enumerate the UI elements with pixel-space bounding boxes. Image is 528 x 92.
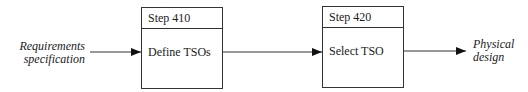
step-420-action: Select TSO: [323, 28, 403, 59]
step-410-box: Step 410 Define TSOs: [141, 7, 223, 89]
output-label-line2: design: [473, 51, 514, 64]
output-label: Physical design: [473, 38, 514, 64]
step-420-header: Step 420: [323, 7, 403, 28]
arrows: [0, 0, 528, 92]
step-410-header: Step 410: [142, 8, 222, 29]
step-410-action: Define TSOs: [142, 29, 222, 60]
step-420-box: Step 420 Select TSO: [322, 6, 404, 88]
